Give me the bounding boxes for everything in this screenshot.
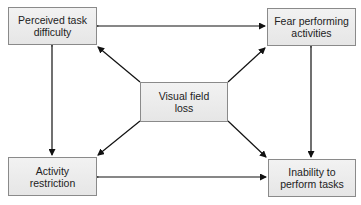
node-label: restriction xyxy=(30,177,76,189)
edge-visual-fear xyxy=(228,48,265,82)
node-activity-restriction: Activityrestriction xyxy=(8,157,97,196)
node-visual-field-loss: Visual fieldloss xyxy=(140,82,228,122)
edge-visual-inability xyxy=(228,121,266,157)
node-label: perform tasks xyxy=(280,178,344,190)
edge-visual-perceived xyxy=(98,47,140,82)
node-label: activities xyxy=(291,27,331,39)
diagram-canvas: Perceived taskdifficulty Fear performing… xyxy=(0,0,361,205)
node-label: Inability to xyxy=(288,166,335,178)
node-label: Activity xyxy=(36,165,69,177)
edge-visual-restriction xyxy=(98,121,140,155)
node-label: Perceived task xyxy=(18,14,87,26)
node-label: difficulty xyxy=(34,26,72,38)
node-label: Visual field xyxy=(159,90,210,102)
node-fear-performing-activities: Fear performingactivities xyxy=(267,8,356,46)
node-inability-to-perform-tasks: Inability toperform tasks xyxy=(268,159,356,197)
node-perceived-task-difficulty: Perceived taskdifficulty xyxy=(8,7,97,45)
node-label: Fear performing xyxy=(274,15,349,27)
node-label: loss xyxy=(175,102,194,114)
